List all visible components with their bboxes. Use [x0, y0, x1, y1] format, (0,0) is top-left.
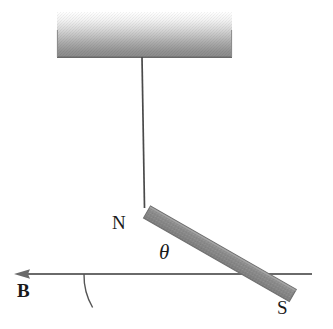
suspension-string	[142, 57, 145, 208]
ceiling-block-texture	[57, 12, 232, 57]
field-arrowhead-icon	[14, 269, 30, 279]
label-south-pole: S	[277, 298, 288, 317]
label-magnetic-field: B	[17, 281, 30, 300]
ceiling-support-block	[57, 12, 232, 57]
bar-magnet-highlight	[150, 207, 296, 290]
angle-arc	[84, 274, 93, 308]
label-angle-theta: θ	[159, 242, 169, 263]
label-north-pole: N	[112, 213, 126, 232]
diagram-canvas	[0, 0, 333, 329]
physics-diagram-figure: N θ B S	[0, 0, 333, 329]
